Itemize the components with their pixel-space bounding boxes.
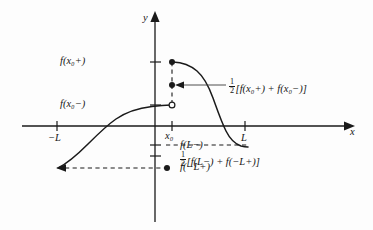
- x-tick-label-L: L: [241, 133, 247, 144]
- fourier-convergence-figure: y x −L x₀ L f(x₀+) f(x₀−) 1 2 [f(x₀+) + …: [0, 0, 373, 230]
- plot-canvas: [0, 0, 373, 230]
- fraction-numerator: 1: [229, 78, 235, 86]
- x-tick-label-minus-L: −L: [48, 133, 61, 144]
- label-f-minus-L-plus: f(−L+): [180, 162, 210, 173]
- label-f-x0-plus: f(x₀+): [60, 56, 85, 67]
- curve-right-branch: [173, 62, 248, 147]
- label-f-x0-minus: f(x₀−): [60, 99, 85, 110]
- x-axis-label: x: [350, 127, 355, 138]
- marker-midpoint-x0: [169, 82, 175, 88]
- label-f-L-minus: f(L−): [180, 140, 203, 151]
- y-axis-arrowhead: [150, 11, 159, 22]
- marker-f-x0-plus: [169, 59, 175, 65]
- marker-f-x0-minus: [169, 102, 175, 108]
- fraction-denominator: 2: [229, 86, 235, 95]
- label-midpoint-x0-expression: [f(x₀+) + f(x₀−)]: [236, 83, 307, 94]
- x-tick-label-x0: x₀: [165, 131, 173, 142]
- marker-midpoint-endpoints: [164, 165, 170, 171]
- label-midpoint-x0: 1 2 [f(x₀+) + f(x₀−)]: [229, 78, 307, 95]
- midpoint-leader-arrowhead: [175, 82, 184, 89]
- fraction-one-half-x0: 1 2: [229, 78, 235, 95]
- fraction-numerator: 1: [180, 151, 186, 159]
- y-axis-label: y: [143, 13, 148, 24]
- curve-left-branch: [58, 105, 171, 168]
